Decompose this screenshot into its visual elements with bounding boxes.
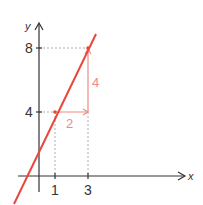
slope-chart: y x 8 4 1 3 2 4 [0, 0, 203, 205]
x-tick-1: 1 [51, 182, 59, 198]
point-3-8 [86, 46, 90, 50]
run-label: 2 [66, 116, 73, 131]
x-axis-label: x [187, 170, 194, 182]
y-tick-4: 4 [25, 104, 33, 120]
x-tick-3: 3 [84, 182, 92, 198]
point-1-4 [53, 110, 57, 114]
y-tick-8: 8 [25, 40, 33, 56]
y-axis-label: y [24, 20, 32, 32]
rise-label: 4 [92, 75, 99, 90]
